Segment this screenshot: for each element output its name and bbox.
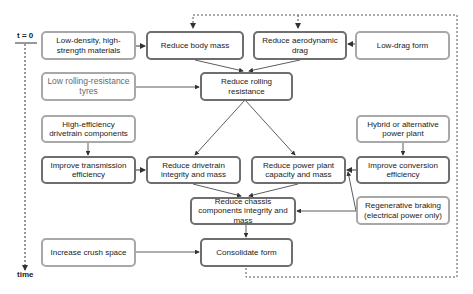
node-reduce-rolling-resistance: Reduce rolling resistance [200,72,293,101]
node-low-drag-form: Low-drag form [355,31,450,60]
node-regen-braking: Regenerative braking (electrical power o… [356,196,450,225]
timeline-start-label: t = 0 [17,31,33,40]
node-low-density-materials: Low-density, high-strength materials [41,31,136,60]
node-reduce-power-plant: Reduce power plant capacity and mass [251,156,346,184]
node-consolidate-form: Consolidate form [200,238,293,267]
node-reduce-body-mass: Reduce body mass [146,31,244,60]
node-high-eff-drivetrain: High-efficiency drivetrain components [41,115,136,143]
node-reduce-drivetrain: Reduce drivetrain integrity and mass [146,156,241,184]
node-hybrid-power-plant: Hybrid or alternative power plant [356,115,450,143]
timeline-end-label: time [17,270,33,279]
node-increase-crush-space: Increase crush space [41,238,136,267]
node-reduce-aero-drag: Reduce aerodynamic drag [253,31,347,60]
node-reduce-chassis: Reduce chassis components integrity and … [190,197,296,225]
node-improve-conversion: Improve conversion efficiency [356,156,450,184]
node-improve-transmission: Improve transmission efficiency [41,156,136,184]
node-low-rr-tyres: Low rolling-resistance tyres [41,72,136,101]
